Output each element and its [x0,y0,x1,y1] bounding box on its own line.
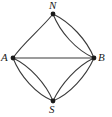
edge-a-s-inner [13,58,53,101]
edge-n-b-outer [53,14,94,58]
node-dot-n [51,12,56,17]
graph-figure: N A B S [0,0,112,117]
edge-a-s-outer [13,58,53,101]
edge-s-b-inner [53,58,94,101]
node-label-b: B [98,52,105,63]
graph-canvas [0,0,112,117]
edge-n-a [13,14,53,58]
edge-n-b-inner [53,14,94,58]
node-label-a: A [1,52,8,63]
edge-s-b-outer [53,58,94,101]
node-label-s: S [49,104,55,115]
node-dot-a [11,56,16,61]
edge-group [13,14,94,101]
node-label-n: N [49,0,56,11]
node-dot-b [92,56,97,61]
